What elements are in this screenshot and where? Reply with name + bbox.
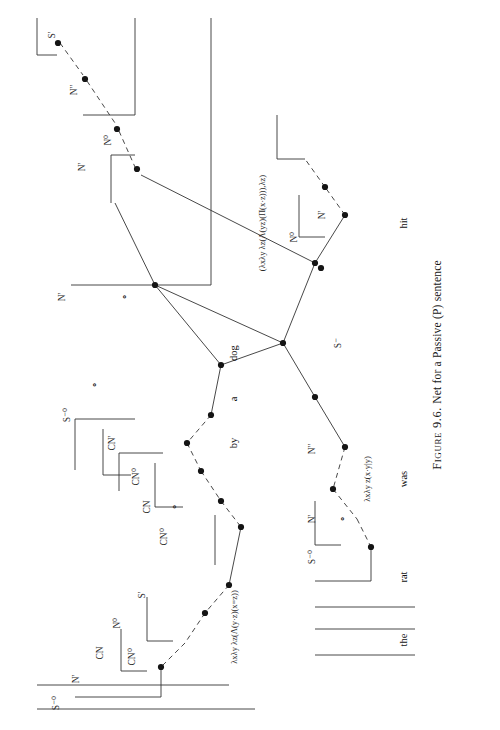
terminal-word-label: rat (398, 571, 409, 582)
node-label: N⁰ (103, 135, 113, 146)
node-label: ∘ (169, 504, 179, 510)
figure-caption: Figure 9.6. Net for a Passive (P) senten… (430, 15, 445, 715)
node-label: CN (142, 500, 152, 513)
figure-caption-text: Net for a Passive (P) sentence (431, 260, 443, 404)
terminal-word-label: hit (398, 217, 409, 228)
node-label: ∘ (119, 294, 129, 300)
word-label-layer: theratwashitbyadog (228, 217, 409, 646)
node-label: S' (47, 31, 57, 38)
node-label: S⁻⁰ (62, 408, 72, 422)
node-label: N' (77, 162, 87, 171)
figure-page: S'N''N⁰N'N'∘∘S⁻⁰CN'CN⁰CN∘CN⁰S'N⁰CNCN⁰N'S… (0, 0, 500, 730)
node-label: S' (137, 591, 147, 598)
node-label: N' (317, 210, 327, 219)
node-label: CN⁰ (127, 648, 137, 665)
node-label: CN⁰ (159, 528, 169, 545)
terminal-word-label: the (398, 633, 409, 646)
node-label: ∘ (89, 382, 99, 388)
lambda-term-label: λxλy z(x·y|y) (362, 456, 372, 502)
terminal-word-label: a (228, 396, 239, 401)
node-label: ∘ (337, 516, 347, 522)
proof-net-graphic: S'N''N⁰N'N'∘∘S⁻⁰CN'CN⁰CN∘CN⁰S'N⁰CNCN⁰N'S… (15, 15, 485, 715)
net-edges (37, 18, 415, 709)
node-label: N'' (307, 444, 317, 455)
terminal-word-label: was (398, 471, 409, 487)
terminal-word-label: by (228, 437, 239, 448)
node-label: N' (71, 674, 81, 683)
node-label: N' (57, 292, 67, 301)
lambda-term-layer: λxλy λz(Λ(y·z)(x=z))λxλy z(x·y|y)(λxλy λ… (229, 175, 372, 664)
node-label: S⁻⁰ (307, 550, 317, 564)
node-label: N⁰ (289, 232, 299, 243)
node-label: N⁰ (112, 618, 122, 629)
node-label: CN (95, 646, 105, 659)
node-label-layer: S'N''N⁰N'N'∘∘S⁻⁰CN'CN⁰CN∘CN⁰S'N⁰CNCN⁰N'S… (47, 31, 347, 710)
node-label: CN' (107, 435, 117, 450)
node-label: S⁻ (333, 338, 343, 348)
terminal-word-label: dog (228, 344, 239, 361)
node-label: N'' (69, 85, 79, 96)
lambda-term-label: (λxλy λz(Λ(yz)(Π(x·z))),λz) (257, 175, 267, 271)
node-label: N' (307, 514, 317, 523)
net-plate: S'N''N⁰N'N'∘∘S⁻⁰CN'CN⁰CN∘CN⁰S'N⁰CNCN⁰N'S… (15, 15, 485, 715)
figure-caption-label: Figure 9.6. (430, 407, 444, 470)
node-label: CN⁰ (131, 468, 141, 485)
lambda-term-label: λxλy λz(Λ(y·z)(x=z)) (229, 590, 239, 664)
node-label: S⁻⁰ (51, 696, 61, 710)
